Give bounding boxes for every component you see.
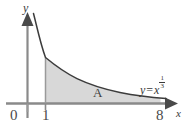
- equation-exponent-fraction: 13: [159, 75, 165, 90]
- equation-lhs: y: [140, 83, 145, 97]
- x-tick-label-8: 8: [156, 108, 164, 123]
- function-graph-figure: y x 0 1 8 A y=x13: [0, 0, 189, 131]
- y-axis-label: y: [23, 2, 28, 14]
- exponent-denominator: 3: [159, 83, 165, 90]
- equation-operator: =: [146, 83, 153, 97]
- curve-equation-label: y=x13: [140, 76, 165, 96]
- exponent-numerator: 1: [159, 75, 165, 82]
- x-axis-label: x: [176, 108, 181, 119]
- x-tick-label-1: 1: [42, 108, 50, 123]
- origin-tick-label: 0: [10, 108, 18, 123]
- region-label-A: A: [93, 86, 102, 99]
